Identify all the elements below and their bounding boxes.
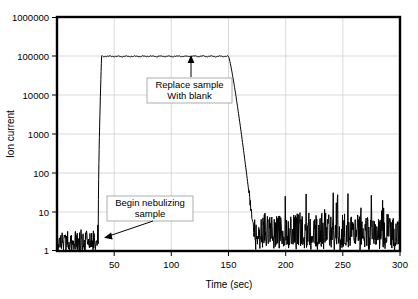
ytick-label-10000: 10000 [23,90,49,101]
begin-nebulizing-line1: Begin nebulizing [115,197,185,208]
xtick-label-50: 50 [109,259,120,270]
ytick-label-10: 10 [38,207,49,218]
xtick-label-150: 150 [221,259,237,270]
replace-sample-line1: Replace sample [155,79,223,90]
ytick-label-100000: 100000 [17,51,49,62]
xtick-label-100: 100 [163,259,179,270]
xtick-label-200: 200 [278,259,294,270]
figure-background [0,0,418,299]
xtick-label-300: 300 [392,259,408,270]
x-axis-title: Time (sec) [206,279,253,290]
ion-current-time-plot: 1000000 100000 10000 1000 100 10 1 50 10… [0,0,418,299]
y-axis-title: Ion current [5,110,16,158]
ytick-label-1: 1 [44,245,49,256]
ytick-label-100: 100 [33,168,49,179]
replace-sample-line2: With blank [167,90,212,101]
ytick-label-1000000: 1000000 [12,12,49,23]
chart-figure: 1000000 100000 10000 1000 100 10 1 50 10… [0,0,418,299]
begin-nebulizing-line2: sample [135,208,166,219]
xtick-label-250: 250 [335,259,351,270]
ytick-label-1000: 1000 [28,129,49,140]
